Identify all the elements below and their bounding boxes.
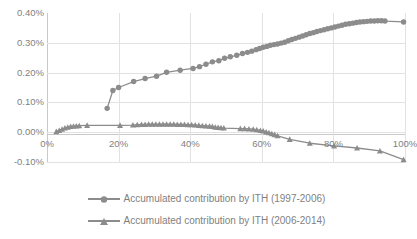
series-2 — [53, 121, 406, 162]
data-point-circle — [154, 73, 159, 78]
legend-label-series-1: Accumulated contribution by ITH (1997-20… — [124, 193, 326, 205]
y-tick-label: 0.00% — [4, 127, 44, 137]
data-point-circle — [203, 62, 208, 67]
plot-area — [47, 13, 405, 162]
x-tick-label: 0% — [40, 139, 54, 149]
data-point-circle — [104, 106, 109, 111]
legend-label-series-2: Accumulated contribution by ITH (2006-20… — [124, 215, 326, 227]
data-point-circle — [240, 51, 245, 56]
x-tick-label: 100% — [393, 139, 417, 149]
legend-item-series-2[interactable]: Accumulated contribution by ITH (2006-20… — [0, 210, 413, 232]
x-tick-label: 80% — [324, 139, 343, 149]
data-point-circle — [177, 68, 182, 73]
legend-item-series-1[interactable]: Accumulated contribution by ITH (1997-20… — [0, 188, 413, 210]
data-point-circle — [222, 56, 227, 61]
y-tick-label: 0.20% — [4, 68, 44, 78]
series-1 — [104, 18, 406, 111]
legend-marker-circle-icon — [88, 193, 120, 205]
y-tick-label: 0.10% — [4, 97, 44, 107]
y-tick-label: 0.30% — [4, 38, 44, 48]
data-point-circle — [164, 70, 169, 75]
y-tick-label: 0.40% — [4, 8, 44, 18]
data-point-circle — [210, 59, 215, 64]
data-point-circle — [197, 64, 202, 69]
data-point-circle — [216, 58, 221, 63]
data-point-circle — [228, 54, 233, 59]
series-line — [107, 21, 403, 109]
data-point-circle — [382, 18, 387, 23]
circle-icon — [99, 195, 109, 204]
data-point-circle — [234, 53, 239, 58]
x-tick-label: 60% — [252, 139, 271, 149]
series-layer — [47, 13, 405, 162]
chart-legend: Accumulated contribution by ITH (1997-20… — [0, 188, 413, 232]
triangle-icon — [99, 217, 109, 226]
data-point-circle — [131, 79, 136, 84]
y-tick-label: -0.10% — [4, 157, 44, 167]
data-point-circle — [142, 76, 147, 81]
gridline-horizontal — [47, 162, 405, 163]
data-point-circle — [401, 19, 406, 24]
legend-marker-triangle-icon — [88, 215, 120, 227]
x-tick-label: 20% — [109, 139, 128, 149]
x-tick-label: 40% — [181, 139, 200, 149]
data-point-circle — [110, 88, 115, 93]
data-point-circle — [190, 66, 195, 71]
data-point-circle — [116, 85, 121, 90]
